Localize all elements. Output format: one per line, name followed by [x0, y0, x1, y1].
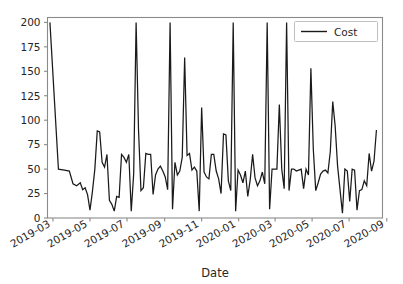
data-series-group [50, 22, 377, 213]
line-chart: 0255075100125150175200 2019-032019-05201… [0, 0, 403, 284]
x-tick-label: 2020-03 [230, 217, 274, 249]
cost-line-path [50, 22, 377, 213]
x-tick-label: 2020-05 [267, 217, 311, 249]
y-tick-label: 175 [20, 41, 40, 53]
x-tick-label: 2019-09 [120, 217, 164, 249]
x-tick-label: 2019-05 [45, 217, 89, 249]
x-tick-label: 2019-03 [8, 217, 52, 249]
y-tick-label: 75 [27, 138, 40, 150]
y-axis-ticks: 0255075100125150175200 [20, 16, 47, 224]
y-tick-label: 150 [20, 65, 40, 77]
chart-legend: Cost [295, 22, 378, 42]
x-tick-label: 2020-07 [304, 217, 348, 249]
y-tick-label: 25 [27, 187, 40, 199]
x-axis-title: Date [201, 266, 229, 280]
chart-figure: 0255075100125150175200 2019-032019-05201… [0, 0, 403, 284]
legend-label-cost: Cost [334, 26, 357, 38]
x-tick-label: 2019-11 [157, 217, 201, 249]
x-tick-label: 2019-07 [82, 217, 126, 249]
y-tick-label: 125 [20, 90, 40, 102]
y-tick-label: 200 [20, 16, 40, 28]
x-tick-label: 2020-09 [342, 217, 386, 249]
y-tick-label: 100 [20, 114, 40, 126]
x-tick-label: 2020-01 [194, 217, 238, 249]
x-axis-ticks: 2019-032019-052019-072019-092019-112020-… [8, 217, 387, 249]
y-tick-label: 50 [27, 163, 40, 175]
